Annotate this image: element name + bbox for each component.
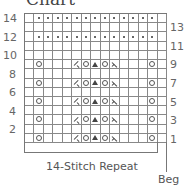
chart-cell	[34, 69, 43, 78]
chart-cell	[148, 106, 157, 115]
purl-dot-icon	[44, 32, 53, 41]
chart-cell	[101, 106, 110, 115]
row-label-right: 13	[170, 21, 184, 34]
k2tog-icon	[72, 60, 81, 69]
purl-dot-icon	[72, 14, 81, 23]
chart-cell	[129, 79, 138, 88]
purl-dot-icon	[129, 14, 138, 23]
chart-cell	[82, 42, 91, 51]
chart-cell	[158, 51, 167, 60]
k2tog-icon	[72, 79, 81, 88]
chart-cell	[44, 79, 53, 88]
purl-dot-icon	[91, 14, 100, 23]
chart-cell	[110, 51, 119, 60]
purl-dot-icon	[101, 14, 110, 23]
chart-cell	[34, 88, 43, 97]
chart-cell	[25, 125, 34, 134]
row-label-left: 10	[3, 49, 17, 62]
row-label-right: 7	[170, 77, 177, 90]
chart-cell	[63, 42, 72, 51]
chart-cell	[158, 88, 167, 97]
row-label-right: 11	[170, 40, 184, 53]
chart-cell	[110, 69, 119, 78]
chart-title: Chart	[26, 0, 75, 9]
chart-cell	[53, 79, 62, 88]
chart-cell	[120, 42, 129, 51]
chart-cell	[158, 97, 167, 106]
chart-cell	[44, 51, 53, 60]
chart-cell	[34, 42, 43, 51]
chart-cell	[139, 51, 148, 60]
chart-cell	[120, 106, 129, 115]
chart-cell	[120, 79, 129, 88]
chart-cell	[44, 88, 53, 97]
chart-cell	[129, 106, 138, 115]
chart-cell	[129, 51, 138, 60]
yarn-over-icon	[34, 97, 43, 106]
purl-dot-icon	[72, 32, 81, 41]
chart-cell	[72, 51, 81, 60]
chart-cell	[63, 106, 72, 115]
k2tog-icon	[72, 97, 81, 106]
chart-cell	[63, 51, 72, 60]
chart-cell	[53, 88, 62, 97]
chart-cell	[82, 51, 91, 60]
purl-dot-icon	[82, 32, 91, 41]
chart-cell	[101, 69, 110, 78]
row-label-left: 6	[9, 86, 16, 99]
purl-dot-icon	[53, 32, 62, 41]
chart-cell	[158, 125, 167, 134]
chart-cell	[25, 88, 34, 97]
chart-cell	[25, 42, 34, 51]
chart-cell	[44, 69, 53, 78]
chart-cell	[120, 97, 129, 106]
chart-cell	[129, 97, 138, 106]
chart-cell	[44, 60, 53, 69]
chart-cell	[158, 32, 167, 41]
sk2p-icon	[91, 60, 100, 69]
repeat-bracket	[24, 142, 158, 153]
chart-cell	[25, 97, 34, 106]
yarn-over-icon	[34, 60, 43, 69]
yarn-over-icon	[82, 97, 91, 106]
chart-cell	[25, 32, 34, 41]
chart-cell	[63, 60, 72, 69]
ssk-icon	[110, 79, 119, 88]
yarn-over-icon	[82, 115, 91, 124]
chart-cell	[44, 97, 53, 106]
chart-cell	[91, 51, 100, 60]
chart-cell	[129, 42, 138, 51]
chart-cell	[44, 125, 53, 134]
chart-cell	[120, 60, 129, 69]
chart-cell	[72, 88, 81, 97]
chart-cell	[91, 106, 100, 115]
chart-cell	[139, 69, 148, 78]
chart-cell	[129, 60, 138, 69]
chart-cell	[25, 106, 34, 115]
chart-cell	[148, 51, 157, 60]
chart-cell	[110, 125, 119, 134]
chart-cell	[63, 88, 72, 97]
ssk-icon	[110, 60, 119, 69]
chart-cell	[53, 125, 62, 134]
purl-dot-icon	[63, 14, 72, 23]
chart-cell	[110, 42, 119, 51]
chart-cell	[82, 106, 91, 115]
chart-cell	[25, 51, 34, 60]
chart-cell	[82, 23, 91, 32]
chart-cell	[120, 69, 129, 78]
chart-cell	[63, 69, 72, 78]
chart-cell	[148, 88, 157, 97]
chart-cell	[120, 23, 129, 32]
beg-marker-line	[166, 142, 167, 172]
chart-cell	[53, 106, 62, 115]
row-label-left: 8	[9, 68, 16, 81]
purl-dot-icon	[129, 32, 138, 41]
yarn-over-icon	[148, 60, 157, 69]
chart-cell	[120, 125, 129, 134]
chart-cell	[158, 69, 167, 78]
yarn-over-icon	[34, 79, 43, 88]
chart-cell	[53, 51, 62, 60]
chart-cell	[53, 115, 62, 124]
stitch-chart-grid	[24, 13, 167, 143]
